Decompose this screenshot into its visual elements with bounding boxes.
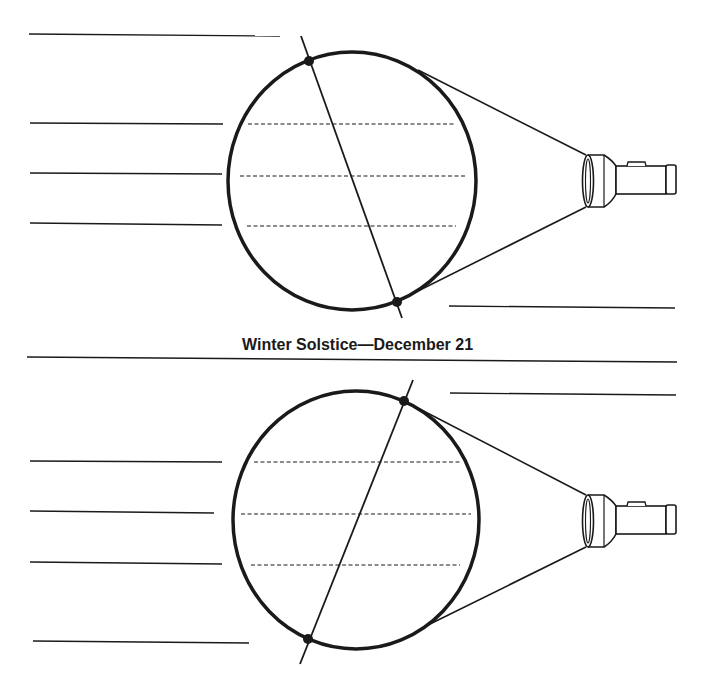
- flashlight-icon: [583, 155, 677, 207]
- answer-blank-line: [30, 173, 222, 174]
- pole-dot: [303, 634, 313, 644]
- diagram-caption: Winter Solstice—December 21: [242, 336, 473, 354]
- answer-blank-line: [30, 511, 214, 513]
- answer-blank-line: [33, 641, 249, 643]
- light-beam-line: [428, 547, 586, 625]
- earth-globe: [233, 391, 479, 649]
- light-beam-line: [418, 70, 586, 155]
- pole-dot: [399, 396, 409, 406]
- section-separator-line: [27, 357, 677, 362]
- answer-blank-line: [450, 393, 676, 395]
- top-diagram: [29, 34, 676, 318]
- answer-blank-line: [30, 562, 222, 564]
- earth-axis: [301, 36, 402, 318]
- answer-blank-line: [30, 461, 222, 462]
- pole-dot: [392, 297, 402, 307]
- answer-blank-line: [29, 34, 280, 36]
- answer-blank-line: [30, 123, 223, 124]
- pole-dot: [304, 56, 314, 66]
- earth-axis: [300, 380, 413, 664]
- answer-blank-line: [30, 223, 222, 225]
- light-beam-line: [408, 403, 586, 495]
- answer-blank-line: [449, 306, 675, 308]
- bottom-diagram: [30, 380, 676, 664]
- flashlight-icon: [583, 495, 677, 547]
- light-beam-line: [400, 207, 586, 300]
